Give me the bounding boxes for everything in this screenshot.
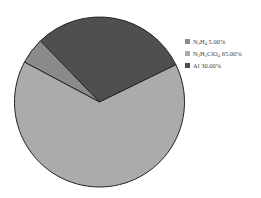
legend-label: Al 30.00% [193, 62, 221, 69]
pie-chart [0, 0, 261, 198]
legend-item: N2H5ClO4 65.00% [185, 47, 242, 59]
legend-label: N2H5ClO4 65.00% [193, 50, 242, 57]
legend-swatch-icon [185, 39, 190, 44]
legend-item: N2H4 5.00% [185, 35, 242, 47]
legend-item: Al 30.00% [185, 59, 242, 71]
legend-swatch-icon [185, 63, 190, 68]
legend-swatch-icon [185, 51, 190, 56]
legend: N2H4 5.00%N2H5ClO4 65.00%Al 30.00% [185, 35, 242, 71]
legend-label: N2H4 5.00% [193, 38, 225, 45]
